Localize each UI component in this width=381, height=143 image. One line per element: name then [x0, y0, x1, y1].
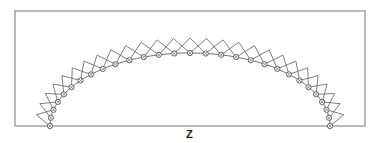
truss-node: [172, 51, 177, 56]
truss-node: [320, 99, 325, 104]
truss-node: [48, 115, 53, 120]
truss-node: [127, 58, 132, 63]
truss-node: [219, 52, 224, 57]
truss-node: [156, 52, 161, 57]
truss-nodes: [47, 50, 332, 128]
arch-truss-diagram: [0, 0, 381, 143]
truss-node: [306, 85, 311, 90]
truss-node: [297, 78, 302, 83]
truss-node: [78, 78, 83, 83]
truss-node: [100, 66, 105, 71]
truss-node: [47, 123, 52, 128]
truss-node: [88, 72, 93, 77]
truss-node: [324, 107, 329, 112]
truss-node: [248, 58, 253, 63]
truss-node: [275, 66, 280, 71]
truss-node: [61, 92, 66, 97]
truss-node: [69, 85, 74, 90]
truss-node: [51, 107, 56, 112]
truss-node: [262, 62, 267, 67]
truss-node: [55, 99, 60, 104]
truss-node: [203, 51, 208, 56]
diagram-frame: [15, 11, 365, 126]
truss-node: [327, 115, 332, 120]
axis-label-z: Z: [186, 128, 193, 140]
truss-node: [141, 55, 146, 60]
truss-node: [327, 123, 332, 128]
truss-node: [286, 72, 291, 77]
truss-node: [234, 55, 239, 60]
truss-node: [113, 62, 118, 67]
truss-node: [187, 50, 192, 55]
truss-node: [314, 92, 319, 97]
